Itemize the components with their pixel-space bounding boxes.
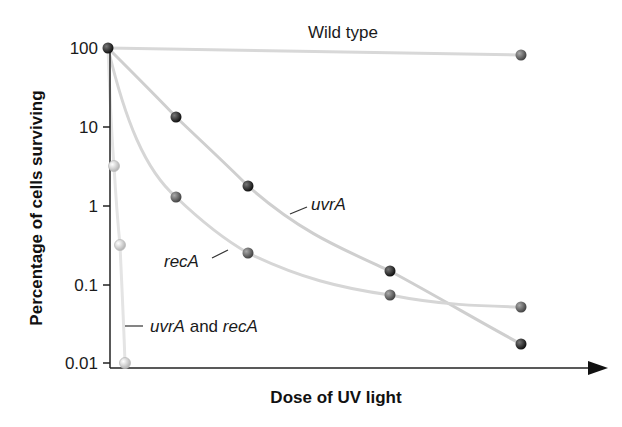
marker-wild-type	[516, 50, 527, 61]
double-mutant-gene1: uvrA	[150, 317, 185, 336]
marker-double-1	[109, 161, 120, 172]
survival-chart: 100 10 1 0.1 0.01 Dose of UV light Perce…	[0, 0, 622, 427]
ytick-label-0.01: 0.01	[65, 354, 98, 373]
uvrA-label: uvrA	[311, 195, 346, 214]
uvrA-label-leader	[290, 207, 307, 214]
marker-recA-1	[171, 192, 182, 203]
ytick-label-0.1: 0.1	[74, 276, 98, 295]
marker-uvrA-1	[171, 112, 182, 123]
y-axis-title: Percentage of cells surviving	[27, 90, 46, 325]
marker-double-3	[120, 358, 131, 369]
ytick-label-10: 10	[79, 118, 98, 137]
marker-uvrA-4	[516, 339, 527, 350]
recA-label-leader	[212, 250, 228, 258]
marker-uvrA-2	[243, 181, 254, 192]
marker-uvrA-3	[385, 266, 396, 277]
double-mutant-and: and	[185, 317, 223, 336]
x-axis-title: Dose of UV light	[270, 388, 402, 407]
marker-recA-3	[385, 290, 396, 301]
double-mutant-gene2: recA	[223, 317, 258, 336]
wild-type-label: Wild type	[308, 23, 378, 42]
marker-origin	[103, 43, 114, 54]
x-axis	[110, 361, 608, 375]
double-mutant-label: uvrA and recA	[150, 317, 258, 336]
ytick-label-1: 1	[89, 197, 98, 216]
marker-recA-4	[516, 302, 527, 313]
recA-label: recA	[164, 252, 199, 271]
x-axis-arrow-icon	[588, 361, 608, 375]
marker-double-2	[115, 240, 126, 251]
marker-recA-2	[243, 248, 254, 259]
wild-type-curve	[108, 48, 521, 55]
ytick-label-100: 100	[70, 39, 98, 58]
